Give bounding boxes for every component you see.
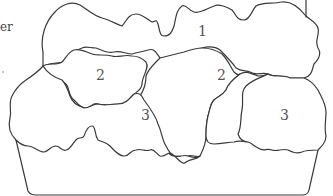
edge-text-fragment: er	[0, 21, 13, 33]
region-label-3-left: 3	[141, 108, 150, 122]
region-label-2-left: 2	[96, 68, 105, 82]
edge-dot	[2, 71, 4, 73]
region-label-3-right: 3	[280, 108, 289, 122]
region-label-1: 1	[198, 24, 207, 38]
planter-diagram	[0, 0, 333, 196]
region-label-2-right: 2	[217, 68, 226, 82]
